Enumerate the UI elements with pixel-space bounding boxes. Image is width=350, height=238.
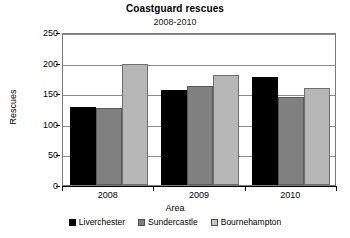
x-tick-mark (153, 186, 154, 191)
y-tick-label: 50 (32, 151, 58, 160)
legend-label: Bournehampton (221, 217, 282, 227)
x-tick-label: 2008 (78, 190, 138, 200)
legend-label: Liverchester (79, 217, 125, 227)
legend-item: Sundercastle (138, 217, 198, 227)
legend-item: Bournehampton (211, 217, 282, 227)
x-axis-line (62, 186, 337, 187)
x-tick-label: 2009 (169, 190, 229, 200)
legend-swatch-icon (211, 219, 218, 226)
plot-area (62, 33, 336, 186)
x-tick-mark (62, 186, 63, 191)
bar (96, 108, 122, 185)
bar (161, 90, 187, 185)
bar (304, 88, 330, 185)
y-tick-mark (56, 94, 60, 95)
legend-swatch-icon (69, 219, 76, 226)
bar (278, 97, 304, 185)
y-tick-mark (56, 125, 60, 126)
chart-container: Coastguard rescues 2008-2010 Rescues 050… (0, 0, 350, 238)
y-tick-label: 250 (32, 29, 58, 38)
y-tick-label: 100 (32, 121, 58, 130)
chart-legend: LiverchesterSundercastleBournehampton (0, 217, 350, 227)
y-axis-title: Rescues (8, 77, 18, 137)
bar (122, 64, 148, 185)
y-tick-mark (56, 64, 60, 65)
x-axis-title: Area (0, 203, 350, 213)
y-tick-mark (56, 186, 60, 187)
legend-label: Sundercastle (148, 217, 198, 227)
y-tick-label: 150 (32, 90, 58, 99)
y-tick-mark (56, 33, 60, 34)
legend-item: Liverchester (69, 217, 125, 227)
bar (252, 77, 278, 185)
y-tick-mark (56, 155, 60, 156)
legend-swatch-icon (138, 219, 145, 226)
y-tick-label: 0 (32, 182, 58, 191)
bar (187, 86, 213, 185)
bar (213, 75, 239, 185)
bar (70, 107, 96, 185)
x-tick-label: 2010 (260, 190, 320, 200)
bar-series-group (63, 34, 335, 185)
x-tick-mark (245, 186, 246, 191)
x-tick-mark (336, 186, 337, 191)
y-tick-label: 200 (32, 60, 58, 69)
